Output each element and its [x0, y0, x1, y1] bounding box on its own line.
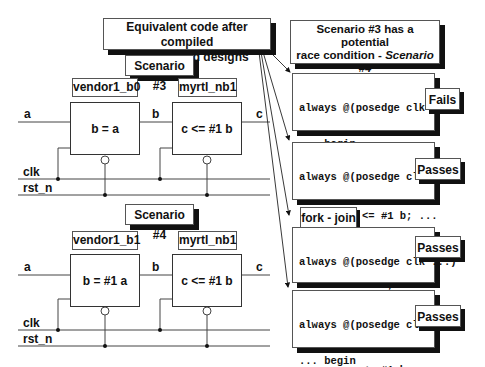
code-block-2: always @(posedge clk ...) ... begin c <=…: [292, 142, 435, 200]
code-block-3: always @(posedge clk ...) ... fork b = #…: [292, 227, 435, 283]
scenario3-signal-c: c: [256, 107, 263, 121]
scenario3-signal-a: a: [24, 107, 31, 121]
scenario4-signal-a: a: [24, 260, 31, 274]
code-block-4: always @(posedge clk ...) ... begin c <=…: [292, 290, 435, 348]
code-line: always @(posedge clk ...): [299, 171, 428, 183]
result-badge-2: Passes: [415, 158, 461, 180]
scenario4-signal-rst-n: rst_n: [23, 332, 52, 346]
result-badge-4: Passes: [415, 305, 461, 327]
scenario4-signal-clk: clk: [23, 316, 40, 330]
code-line: always @(posedge clk ...): [299, 319, 428, 331]
race-condition-note: Scenario #3 has a potential race conditi…: [290, 20, 440, 64]
scenario4-module2-name: myrtl_nb1: [178, 231, 237, 250]
note-line1: Scenario #3 has a potential: [291, 23, 439, 49]
code-line: always @(posedge clk ...): [299, 256, 428, 268]
scenario3-module2-name: myrtl_nb1: [178, 78, 237, 97]
scenario3-title: Scenario #3: [125, 55, 194, 76]
scenario4-title: Scenario #4: [125, 204, 194, 225]
fork-join-label: fork - join: [300, 207, 357, 228]
code-line: always @(posedge clk ...): [299, 102, 428, 114]
code-line: ... begin: [299, 355, 428, 367]
scenario3-module2-block: c <= #1 b: [172, 102, 242, 155]
scenario4-module2-block: c <= #1 b: [172, 254, 242, 307]
result-badge-1: Fails: [425, 88, 460, 110]
code-block-1: always @(posedge clk ...) ... begin b = …: [292, 73, 435, 131]
scenario3-module1-block: b = a: [70, 102, 140, 155]
note-line2-plain: race condition -: [296, 49, 385, 61]
scenario3-signal-clk: clk: [23, 165, 40, 179]
header-line1: Equivalent code after compiled: [104, 20, 270, 50]
scenario3-module1-name: vendor1_b0: [72, 78, 138, 97]
scenario3-signal-rst-n: rst_n: [23, 181, 52, 195]
scenario4-signal-b: b: [152, 260, 159, 274]
scenario4-signal-c: c: [256, 260, 263, 274]
header-callout: Equivalent code after compiled and flatt…: [103, 18, 271, 50]
scenario3-signal-b: b: [152, 107, 159, 121]
scenario4-module1-name: vendor1_b1: [72, 231, 138, 250]
scenario4-module1-block: b = #1 a: [70, 254, 140, 307]
result-badge-3: Passes: [415, 236, 461, 258]
